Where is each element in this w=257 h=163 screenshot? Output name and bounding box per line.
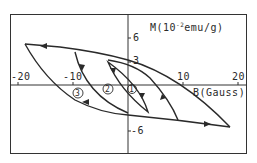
hysteresis-chart: M(10-2emu/g) 6 3 -6 -20 -10 10 20 B(Gaus…: [0, 0, 257, 163]
loop-label-1: 1: [129, 85, 134, 95]
x-tick-neg20: -20: [11, 72, 31, 82]
y-tick-6: 6: [133, 33, 140, 43]
y-axis-label: M(10-2emu/g): [150, 20, 223, 33]
x-tick-20: 20: [232, 72, 245, 82]
loop-label-3: 3: [75, 89, 80, 99]
x-tick-10: 10: [177, 72, 190, 82]
x-axis-label: B(Gauss): [193, 88, 245, 98]
x-tick-neg10: -10: [63, 72, 83, 82]
y-tick-neg6: -6: [131, 126, 144, 136]
loop-2-right: [108, 60, 178, 120]
loop-label-2: 2: [105, 85, 110, 95]
y-tick-3: 3: [133, 56, 140, 66]
